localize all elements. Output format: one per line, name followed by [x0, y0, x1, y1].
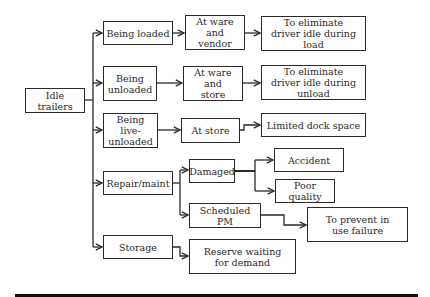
node-at-ware-and-store: At ware and store: [183, 66, 243, 101]
node-scheduled-pm: Scheduled PM: [189, 203, 261, 228]
node-repair-maint: Repair/maint: [103, 171, 173, 195]
node-eliminate-idle-load: To eliminate driver idle during load: [261, 16, 366, 51]
node-accident: Accident: [274, 148, 344, 172]
node-poor-quality: Poor quality: [275, 179, 335, 203]
node-idle-trailers: Idle trailers: [25, 88, 85, 113]
node-at-store: At store: [181, 118, 240, 143]
node-being-unloaded: Being unloaded: [103, 66, 157, 101]
node-damaged: Damaged: [189, 159, 235, 183]
node-eliminate-idle-unload: To eliminate driver idle during unload: [261, 65, 366, 100]
node-reserve-waiting: Reserve waiting for demand: [189, 239, 296, 274]
node-limited-dock-space: Limited dock space: [261, 113, 366, 137]
node-being-loaded: Being loaded: [103, 21, 173, 45]
node-at-ware-and-vendor: At ware and vendor: [185, 15, 245, 50]
node-storage: Storage: [103, 235, 173, 259]
node-prevent-in-use-failure: To prevent in use failure: [307, 207, 408, 242]
node-being-live-unloaded: Being live-unloaded: [103, 113, 158, 148]
